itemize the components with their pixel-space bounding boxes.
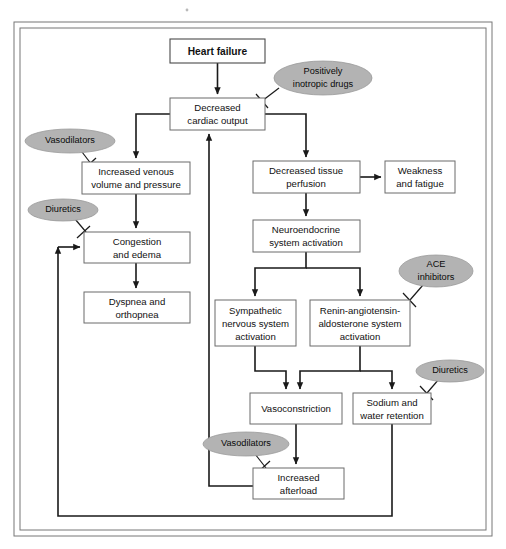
- node-decreased-cardiac-output[interactable]: Decreased cardiac output: [170, 98, 265, 130]
- heart-failure-flowchart: Heart failure Decreased cardiac output I…: [0, 0, 506, 549]
- oval-vasodilators-top-label: Vasodilators: [45, 135, 95, 145]
- node-weakness-and-fatigue-label-line2: and fatigue: [396, 178, 443, 189]
- node-neuroendocrine-label-line2: system activation: [269, 237, 343, 248]
- node-vasoconstriction[interactable]: Vasoconstriction: [250, 393, 342, 424]
- inhibitor-line-ace: [410, 285, 423, 300]
- oval-vasodilators-bottom-label: Vasodilators: [221, 438, 271, 448]
- node-sympathetic-label-line3: activation: [235, 331, 276, 342]
- inhibitor-line-diuretics-left: [75, 219, 86, 232]
- connector-renin-to-sodium-water: [360, 371, 392, 389]
- node-increased-afterload[interactable]: Increased afterload: [253, 468, 344, 499]
- node-increased-afterload-label-line1: Increased: [277, 472, 319, 483]
- oval-vasodilators-top[interactable]: Vasodilators: [25, 129, 115, 153]
- oval-diuretics-left[interactable]: Diuretics: [28, 199, 98, 221]
- node-weakness-and-fatigue[interactable]: Weakness and fatigue: [385, 161, 455, 193]
- node-increased-afterload-label-line2: afterload: [280, 485, 317, 496]
- node-decreased-cardiac-output-label-line1: Decreased: [194, 102, 240, 113]
- connector-sympathetic-to-vasoconstriction: [255, 346, 286, 389]
- node-decreased-tissue-perfusion-label-line2: perfusion: [286, 178, 325, 189]
- node-renin-label-line3: activation: [340, 331, 381, 342]
- node-congestion-and-edema-label-line1: Congestion: [113, 236, 162, 247]
- node-heart-failure-label: Heart failure: [188, 46, 248, 57]
- connector-renin-to-vasoconstriction: [300, 346, 360, 389]
- node-renin-label-line1: Renin-angiotensin-: [320, 305, 401, 316]
- oval-ace-inhibitors-label-line1: ACE: [427, 259, 446, 269]
- node-sympathetic-label-line2: nervous system: [222, 318, 289, 329]
- node-sodium-water-label-line1: Sodium and: [366, 397, 417, 408]
- connector-neuroendocrine-to-renin: [306, 268, 360, 296]
- node-dyspnea-and-orthopnea-label-line2: orthopnea: [115, 309, 159, 320]
- node-heart-failure[interactable]: Heart failure: [170, 39, 265, 63]
- node-neuroendocrine-label-line1: Neuroendocrine: [272, 224, 340, 235]
- node-weakness-and-fatigue-label-line1: Weakness: [398, 165, 443, 176]
- oval-positively-inotropic-label-line2: inotropic drugs: [293, 79, 354, 89]
- oval-diuretics-right-label: Diuretics: [432, 365, 468, 375]
- node-sodium-water-label-line2: water retention: [359, 410, 423, 421]
- oval-ace-inhibitors-label-line2: inhibitors: [418, 272, 455, 282]
- oval-positively-inotropic-label-line1: Positively: [304, 66, 343, 76]
- node-neuroendocrine-system-activation[interactable]: Neuroendocrine system activation: [253, 220, 360, 252]
- node-increased-venous-volume[interactable]: Increased venous volume and pressure: [82, 162, 190, 194]
- connector-cardiac-output-to-tissue-perfusion: [265, 114, 306, 157]
- node-decreased-cardiac-output-label-line2: cardiac output: [187, 115, 248, 126]
- oval-positively-inotropic-drugs[interactable]: Positively inotropic drugs: [274, 61, 372, 95]
- node-vasoconstriction-label: Vasoconstriction: [261, 403, 331, 414]
- node-decreased-tissue-perfusion-label-line1: Decreased tissue: [269, 165, 343, 176]
- connector-cardiac-output-to-venous-volume: [136, 114, 170, 158]
- node-congestion-and-edema[interactable]: Congestion and edema: [84, 232, 190, 263]
- node-increased-venous-volume-label-line2: volume and pressure: [91, 179, 181, 190]
- figure-canvas: Heart failure Decreased cardiac output I…: [0, 0, 506, 549]
- node-decreased-tissue-perfusion[interactable]: Decreased tissue perfusion: [253, 161, 360, 193]
- node-renin-label-line2: aldosterone system: [318, 318, 401, 329]
- node-increased-venous-volume-label-line1: Increased venous: [98, 166, 174, 177]
- node-sympathetic-nervous-system-activation[interactable]: Sympathetic nervous system activation: [215, 300, 296, 346]
- oval-diuretics-right[interactable]: Diuretics: [416, 360, 484, 382]
- node-congestion-and-edema-label-line2: and edema: [113, 249, 162, 260]
- node-sympathetic-label-line1: Sympathetic: [229, 305, 282, 316]
- page-speck: [186, 9, 189, 12]
- node-renin-angiotensin-aldosterone-activation[interactable]: Renin-angiotensin- aldosterone system ac…: [310, 300, 410, 346]
- node-dyspnea-and-orthopnea[interactable]: Dyspnea and orthopnea: [84, 292, 190, 323]
- oval-diuretics-left-label: Diuretics: [45, 204, 81, 214]
- oval-ace-inhibitors[interactable]: ACE inhibitors: [399, 255, 473, 287]
- connector-neuroendocrine-to-sympathetic: [255, 252, 306, 296]
- oval-vasodilators-bottom[interactable]: Vasodilators: [203, 432, 289, 456]
- node-dyspnea-and-orthopnea-label-line1: Dyspnea and: [109, 296, 166, 307]
- node-sodium-and-water-retention[interactable]: Sodium and water retention: [353, 393, 431, 424]
